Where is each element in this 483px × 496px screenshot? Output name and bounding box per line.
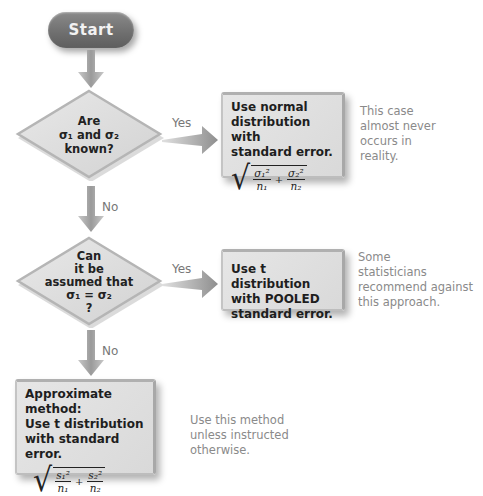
decision-sigmas-known: Are σ₁ and σ₂ known? bbox=[14, 89, 164, 181]
start-node: Start bbox=[48, 12, 134, 48]
result-pooled-t: Use t distribution with POOLED standard … bbox=[221, 249, 345, 311]
arrow-down-icon bbox=[76, 50, 106, 90]
standard-error-formula-s: √ s₁²n₁ + s₂²n₂ bbox=[33, 465, 145, 495]
result-normal-distribution: Use normal distribution with standard er… bbox=[221, 92, 345, 178]
result3-line-1: Approximate method: bbox=[25, 387, 145, 417]
decision2-line-4: σ₁ = σ₂ bbox=[66, 289, 112, 302]
standard-error-formula-sigma: √ σ₁²n₁ + σ₂²n₂ bbox=[231, 163, 334, 193]
decision2-line-2: it be bbox=[74, 263, 103, 276]
decision1-line-2: σ₁ and σ₂ bbox=[59, 128, 119, 142]
result-approximate-method: Approximate method: Use t distribution w… bbox=[15, 379, 156, 475]
result2-line-2: with POOLED bbox=[231, 292, 334, 307]
decision1-line-1: Are bbox=[78, 114, 100, 128]
decision2-line-5: ? bbox=[86, 302, 93, 315]
result3-line-2: Use t distribution bbox=[25, 417, 145, 432]
result1-line-2: distribution with bbox=[231, 115, 334, 145]
note-1: This case almost never occurs in reality… bbox=[360, 104, 436, 164]
sqrt-icon: √ bbox=[231, 162, 250, 195]
decision1-line-3: known? bbox=[64, 142, 113, 156]
note-2: Some statisticians recommend against thi… bbox=[358, 250, 473, 310]
result2-line-1: Use t distribution bbox=[231, 262, 334, 292]
decision2-line-3: assumed that bbox=[45, 276, 134, 289]
result3-line-3: with standard error. bbox=[25, 432, 145, 462]
start-label: Start bbox=[68, 21, 113, 39]
arrow-right-icon bbox=[162, 270, 220, 300]
arrow-right-icon bbox=[162, 126, 220, 156]
result2-line-3: standard error. bbox=[231, 307, 334, 322]
decision-equal-sigmas: Can it be assumed that σ₁ = σ₂ ? bbox=[14, 236, 164, 328]
no-label-2: No bbox=[102, 344, 118, 358]
decision2-line-1: Can bbox=[77, 250, 101, 263]
result1-line-1: Use normal bbox=[231, 100, 334, 115]
sqrt-icon: √ bbox=[33, 464, 52, 496]
no-label-1: No bbox=[102, 200, 118, 214]
note-3: Use this method unless instructed otherw… bbox=[190, 413, 289, 458]
